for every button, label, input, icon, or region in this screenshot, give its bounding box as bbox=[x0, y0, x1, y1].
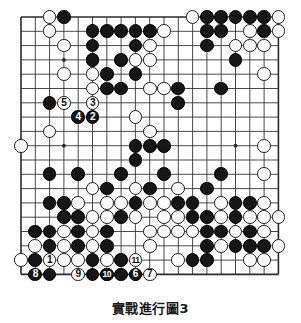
black-stone[interactable] bbox=[243, 239, 257, 253]
black-stone[interactable] bbox=[200, 24, 214, 38]
white-stone[interactable] bbox=[143, 225, 157, 239]
numbered-stone-9[interactable]: 9 bbox=[71, 268, 85, 282]
black-stone[interactable] bbox=[214, 10, 228, 24]
white-stone[interactable] bbox=[114, 196, 128, 210]
white-stone[interactable] bbox=[257, 139, 271, 153]
numbered-stone-11[interactable]: 11 bbox=[129, 253, 143, 267]
white-stone[interactable] bbox=[129, 53, 143, 67]
black-stone[interactable] bbox=[243, 196, 257, 210]
white-stone[interactable] bbox=[272, 10, 286, 24]
white-stone[interactable] bbox=[71, 253, 85, 267]
white-stone[interactable] bbox=[257, 253, 271, 267]
white-stone[interactable] bbox=[71, 196, 85, 210]
white-stone[interactable] bbox=[157, 210, 171, 224]
numbered-stone-5[interactable]: 5 bbox=[57, 96, 71, 110]
black-stone[interactable] bbox=[129, 153, 143, 167]
black-stone[interactable] bbox=[100, 239, 114, 253]
black-stone[interactable] bbox=[257, 24, 271, 38]
black-stone[interactable] bbox=[100, 225, 114, 239]
black-stone[interactable] bbox=[114, 53, 128, 67]
black-stone[interactable] bbox=[229, 10, 243, 24]
white-stone[interactable] bbox=[186, 10, 200, 24]
numbered-stone-6[interactable]: 6 bbox=[129, 268, 143, 282]
black-stone[interactable] bbox=[57, 10, 71, 24]
white-stone[interactable] bbox=[243, 24, 257, 38]
white-stone[interactable] bbox=[129, 210, 143, 224]
white-stone[interactable] bbox=[171, 253, 185, 267]
black-stone[interactable] bbox=[114, 268, 128, 282]
black-stone[interactable] bbox=[143, 139, 157, 153]
white-stone[interactable] bbox=[272, 239, 286, 253]
black-stone[interactable] bbox=[100, 24, 114, 38]
black-stone[interactable] bbox=[229, 239, 243, 253]
black-stone[interactable] bbox=[129, 139, 143, 153]
white-stone[interactable] bbox=[143, 82, 157, 96]
numbered-stone-8[interactable]: 8 bbox=[28, 268, 42, 282]
black-stone[interactable] bbox=[171, 196, 185, 210]
white-stone[interactable] bbox=[157, 196, 171, 210]
black-stone[interactable] bbox=[186, 196, 200, 210]
white-stone[interactable] bbox=[157, 24, 171, 38]
white-stone[interactable] bbox=[214, 210, 228, 224]
white-stone[interactable] bbox=[86, 239, 100, 253]
black-stone[interactable] bbox=[200, 210, 214, 224]
white-stone[interactable] bbox=[57, 239, 71, 253]
white-stone[interactable] bbox=[214, 196, 228, 210]
white-stone[interactable] bbox=[243, 253, 257, 267]
black-stone[interactable] bbox=[114, 210, 128, 224]
black-stone[interactable] bbox=[200, 182, 214, 196]
white-stone[interactable] bbox=[214, 239, 228, 253]
white-stone[interactable] bbox=[243, 210, 257, 224]
black-stone[interactable] bbox=[243, 225, 257, 239]
black-stone[interactable] bbox=[200, 39, 214, 53]
black-stone[interactable] bbox=[114, 167, 128, 181]
numbered-stone-7[interactable]: 7 bbox=[143, 268, 157, 282]
black-stone[interactable] bbox=[257, 239, 271, 253]
white-stone[interactable] bbox=[57, 67, 71, 81]
black-stone[interactable] bbox=[143, 182, 157, 196]
numbered-stone-4[interactable]: 4 bbox=[71, 110, 85, 124]
white-stone[interactable] bbox=[143, 53, 157, 67]
white-stone[interactable] bbox=[157, 82, 171, 96]
white-stone[interactable] bbox=[243, 39, 257, 53]
black-stone[interactable] bbox=[200, 225, 214, 239]
white-stone[interactable] bbox=[43, 10, 57, 24]
black-stone[interactable] bbox=[114, 253, 128, 267]
white-stone[interactable] bbox=[257, 67, 271, 81]
white-stone[interactable] bbox=[57, 253, 71, 267]
black-stone[interactable] bbox=[43, 96, 57, 110]
black-stone[interactable] bbox=[43, 239, 57, 253]
white-stone[interactable] bbox=[143, 239, 157, 253]
black-stone[interactable] bbox=[229, 53, 243, 67]
black-stone[interactable] bbox=[28, 253, 42, 267]
white-stone[interactable] bbox=[143, 39, 157, 53]
black-stone[interactable] bbox=[71, 210, 85, 224]
black-stone[interactable] bbox=[229, 196, 243, 210]
black-stone[interactable] bbox=[243, 10, 257, 24]
black-stone[interactable] bbox=[200, 10, 214, 24]
numbered-stone-3[interactable]: 3 bbox=[86, 96, 100, 110]
black-stone[interactable] bbox=[200, 239, 214, 253]
white-stone[interactable] bbox=[257, 167, 271, 181]
go-board[interactable]: 1234567891011 bbox=[10, 6, 289, 285]
black-stone[interactable] bbox=[129, 67, 143, 81]
black-stone[interactable] bbox=[200, 253, 214, 267]
white-stone[interactable] bbox=[157, 225, 171, 239]
white-stone[interactable] bbox=[143, 125, 157, 139]
white-stone[interactable] bbox=[57, 225, 71, 239]
white-stone[interactable] bbox=[257, 225, 271, 239]
black-stone[interactable] bbox=[57, 210, 71, 224]
black-stone[interactable] bbox=[114, 82, 128, 96]
white-stone[interactable] bbox=[14, 253, 28, 267]
white-stone[interactable] bbox=[100, 253, 114, 267]
black-stone[interactable] bbox=[171, 96, 185, 110]
white-stone[interactable] bbox=[100, 210, 114, 224]
white-stone[interactable] bbox=[129, 110, 143, 124]
black-stone[interactable] bbox=[114, 24, 128, 38]
black-stone[interactable] bbox=[57, 196, 71, 210]
black-stone[interactable] bbox=[129, 196, 143, 210]
black-stone[interactable] bbox=[43, 196, 57, 210]
black-stone[interactable] bbox=[100, 67, 114, 81]
white-stone[interactable] bbox=[272, 210, 286, 224]
white-stone[interactable] bbox=[57, 39, 71, 53]
